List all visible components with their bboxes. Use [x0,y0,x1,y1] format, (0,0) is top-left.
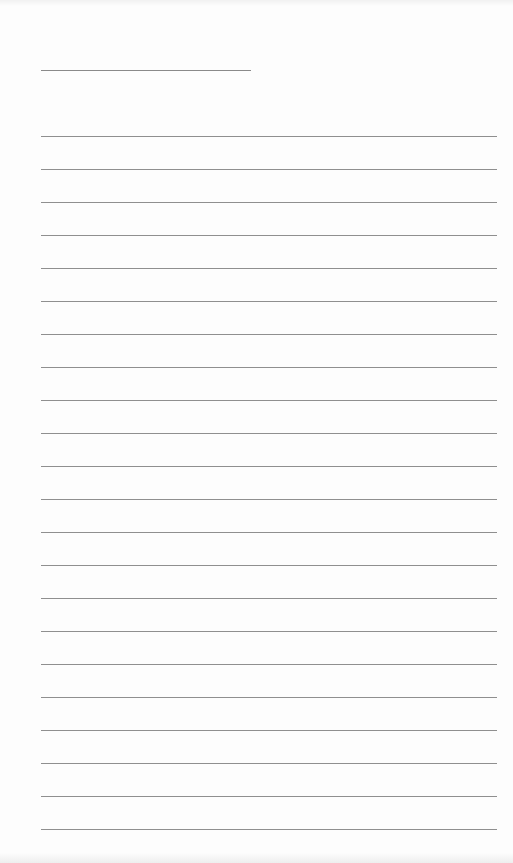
ruled-line [41,532,497,533]
scan-edge-bottom [0,853,513,863]
ruled-line [41,367,497,368]
ruled-line [41,565,497,566]
ruled-line [41,136,497,137]
ruled-line [41,400,497,401]
ruled-line [41,763,497,764]
ruled-line [41,598,497,599]
ruled-line [41,697,497,698]
ruled-line [41,301,497,302]
ruled-line [41,829,497,830]
ruled-line [41,268,497,269]
ruled-line [41,631,497,632]
ruled-line [41,796,497,797]
ruled-line [41,664,497,665]
ruled-line [41,169,497,170]
ruled-line [41,499,497,500]
header-blank-line [41,70,251,71]
ruled-line [41,433,497,434]
ruled-line [41,202,497,203]
ruled-line [41,466,497,467]
lined-page [0,0,513,863]
ruled-line [41,334,497,335]
ruled-line [41,730,497,731]
ruled-line [41,235,497,236]
